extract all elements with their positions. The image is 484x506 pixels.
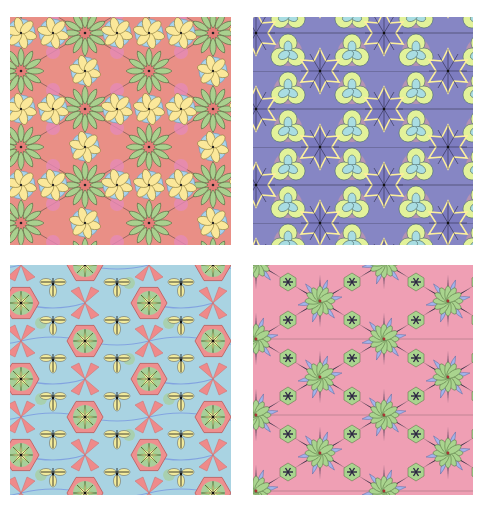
- panel-top-right: [253, 17, 473, 245]
- tiling-pattern-bottom-left: [10, 265, 231, 495]
- tiling-pattern-top-left: [10, 17, 231, 245]
- panel-top-left: [10, 17, 231, 245]
- tiling-pattern-bottom-right: [253, 265, 473, 495]
- panel-bottom-right: [253, 265, 473, 495]
- tiling-pattern-top-right: [253, 17, 473, 245]
- panel-bottom-left: [10, 265, 231, 495]
